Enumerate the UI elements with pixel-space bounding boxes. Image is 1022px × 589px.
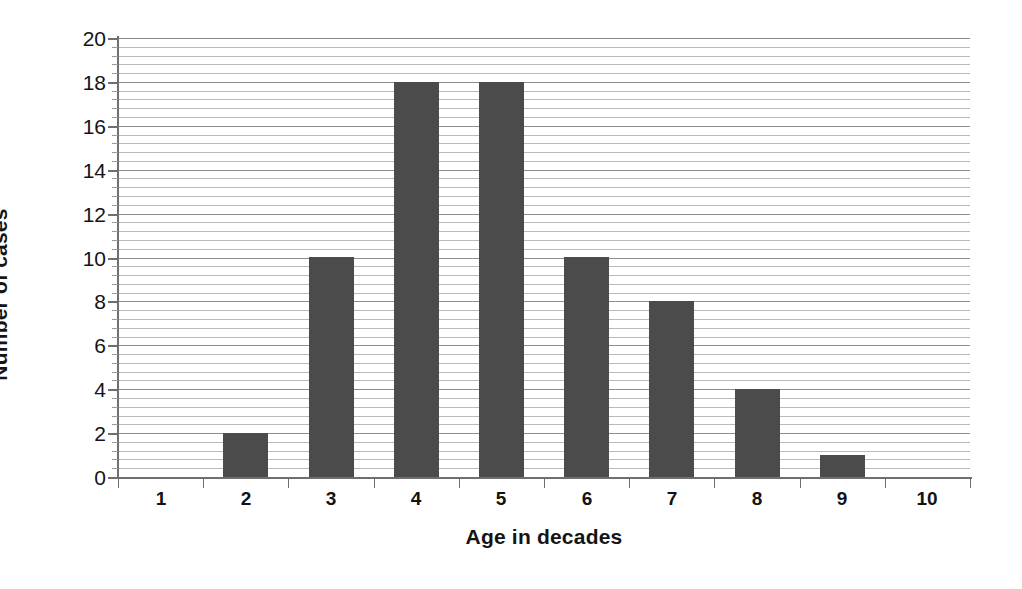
y-tick-minor (112, 135, 118, 136)
bar-series (118, 38, 970, 477)
x-tick (459, 478, 460, 488)
y-tick-minor (112, 284, 118, 285)
y-tick-label: 20 (83, 28, 106, 49)
y-tick-major (108, 82, 119, 84)
y-tick-label: 18 (83, 72, 106, 93)
y-tick-label: 8 (94, 291, 106, 312)
bar (394, 82, 439, 477)
y-tick-minor (112, 117, 118, 118)
x-tick-label: 3 (326, 489, 337, 508)
y-tick-minor (112, 407, 118, 408)
y-tick-minor (112, 231, 118, 232)
y-tick-minor (112, 143, 118, 144)
y-tick-minor (112, 196, 118, 197)
x-tick (203, 478, 204, 488)
x-tick-label: 5 (496, 489, 507, 508)
y-tick-minor (112, 64, 118, 65)
x-tick (970, 478, 971, 488)
y-tick-minor (112, 222, 118, 223)
bar (564, 257, 609, 477)
x-tick (374, 478, 375, 488)
y-tick-label: 16 (83, 116, 106, 137)
plot-area (118, 38, 970, 477)
y-tick-minor (112, 152, 118, 153)
y-tick-label: 6 (94, 335, 106, 356)
y-tick-label: 14 (83, 160, 106, 181)
y-tick-major (108, 38, 119, 40)
y-tick-label: 12 (83, 204, 106, 225)
y-tick-minor (112, 451, 118, 452)
x-tick-label: 6 (582, 489, 593, 508)
bar (479, 82, 524, 477)
bar (649, 301, 694, 477)
y-tick-minor (112, 178, 118, 179)
y-tick-minor (112, 372, 118, 373)
y-tick-minor (112, 47, 118, 48)
y-tick-minor (112, 354, 118, 355)
y-tick-major (108, 345, 119, 347)
y-tick-minor (112, 73, 118, 74)
y-tick-label: 10 (83, 248, 106, 269)
x-tick (288, 478, 289, 488)
x-tick (885, 478, 886, 488)
y-tick-major (108, 258, 119, 260)
bar (820, 455, 865, 477)
y-tick-minor (112, 266, 118, 267)
y-tick-minor (112, 99, 118, 100)
y-tick-minor (112, 363, 118, 364)
y-tick-minor (112, 161, 118, 162)
x-tick (544, 478, 545, 488)
x-tick-label: 8 (752, 489, 763, 508)
y-tick-minor (112, 459, 118, 460)
y-tick-minor (112, 424, 118, 425)
y-tick-minor (112, 240, 118, 241)
y-axis-tick-labels: 02468101214161820 (60, 38, 106, 477)
y-tick-major (108, 214, 119, 216)
y-tick-minor (112, 328, 118, 329)
y-tick-label: 2 (94, 423, 106, 444)
y-tick-minor (112, 187, 118, 188)
y-tick-major (108, 389, 119, 391)
x-tick-label: 10 (916, 489, 937, 508)
bar (309, 257, 354, 477)
x-tick-label: 1 (156, 489, 167, 508)
y-tick-minor (112, 91, 118, 92)
y-tick-minor (112, 275, 118, 276)
y-tick-minor (112, 468, 118, 469)
x-tick (629, 478, 630, 488)
x-axis-tick-labels: 12345678910 (118, 489, 970, 519)
y-tick-minor (112, 293, 118, 294)
y-tick-minor (112, 310, 118, 311)
y-tick-major (108, 126, 119, 128)
x-tick-label: 9 (837, 489, 848, 508)
bar (223, 433, 268, 477)
y-tick-minor (112, 319, 118, 320)
x-tick-label: 4 (411, 489, 422, 508)
y-tick-major (108, 433, 119, 435)
x-tick (800, 478, 801, 488)
y-tick-minor (112, 205, 118, 206)
x-tick-label: 7 (667, 489, 678, 508)
y-tick-minor (112, 56, 118, 57)
y-tick-major (108, 170, 119, 172)
x-tick (118, 478, 119, 488)
y-tick-label: 4 (94, 379, 106, 400)
y-tick-minor (112, 337, 118, 338)
x-tick (714, 478, 715, 488)
x-axis-title: Age in decades (118, 525, 970, 549)
y-tick-minor (112, 249, 118, 250)
y-tick-minor (112, 416, 118, 417)
y-tick-minor (112, 442, 118, 443)
y-tick-minor (112, 380, 118, 381)
bar-chart-figure: Number of cases 02468101214161820 123456… (0, 0, 1022, 589)
y-tick-label: 0 (94, 467, 106, 488)
y-tick-minor (112, 108, 118, 109)
x-tick-label: 2 (241, 489, 252, 508)
bar (735, 389, 780, 477)
y-tick-minor (112, 398, 118, 399)
y-tick-major (108, 301, 119, 303)
